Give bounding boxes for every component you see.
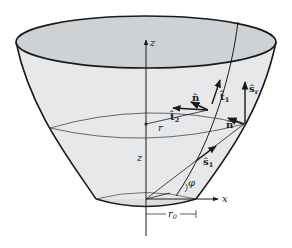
bowl-diagram: z z x r0 ŝ1 φ r t̂2 n̂ t̂1 ŝr n̂	[0, 0, 292, 248]
z-height-label: z	[136, 152, 143, 163]
r0-label: r0	[168, 208, 177, 221]
z-axis-label: z	[149, 37, 156, 48]
n-label-lower: n̂	[226, 119, 234, 130]
n-label-upper: n̂	[192, 92, 200, 103]
r-origin-dot	[145, 123, 148, 126]
x-axis-label: x	[222, 193, 228, 204]
phi-label: φ	[188, 177, 195, 188]
